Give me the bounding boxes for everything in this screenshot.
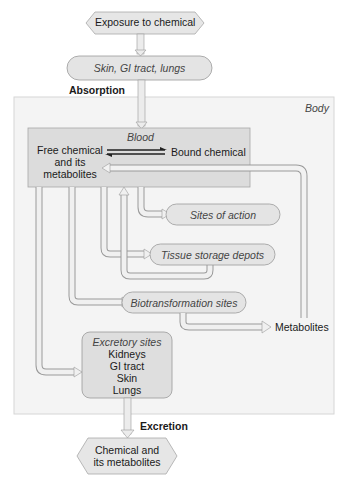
free-chemical-line2: and its	[34, 156, 106, 168]
bound-chemical: Bound chemical	[171, 146, 246, 158]
end-node-line2: its metabolites	[88, 456, 166, 468]
excretion-label: Excretion	[140, 420, 188, 432]
blood-title: Blood	[127, 131, 154, 143]
absorption-label: Absorption	[69, 84, 125, 96]
exposure-node: Exposure to chemical	[95, 16, 195, 28]
biotransformation: Biotransformation sites	[122, 297, 246, 309]
end-node-line1: Chemical and	[88, 444, 166, 456]
excretory-title: Excretory sites	[82, 336, 172, 348]
metabolites-label: Metabolites	[275, 321, 329, 333]
body-label: Body	[305, 102, 329, 114]
free-chemical-line3: metabolites	[34, 168, 106, 180]
free-chemical-line1: Free chemical	[34, 144, 106, 156]
tissue-storage: Tissue storage depots	[150, 249, 275, 261]
excretory-item: Skin	[82, 372, 172, 384]
excretory-item: Kidneys	[82, 348, 172, 360]
entry-sites-node: Skin, GI tract, lungs	[67, 62, 212, 74]
sites-of-action: Sites of action	[166, 209, 280, 221]
excretory-item: Lungs	[82, 384, 172, 396]
excretory-item: GI tract	[82, 360, 172, 372]
